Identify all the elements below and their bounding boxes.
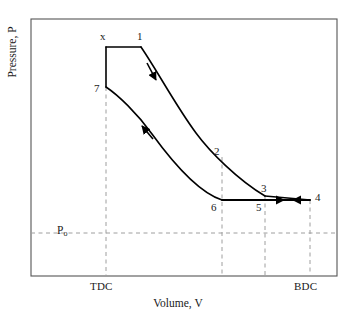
point-label-7: 7 xyxy=(94,82,100,94)
arrow-expansion-direction xyxy=(147,63,156,80)
point-label-6: 6 xyxy=(211,201,217,213)
point-label-x: x xyxy=(100,30,106,42)
point-label-1: 1 xyxy=(137,30,143,42)
point-label-4: 4 xyxy=(315,191,321,203)
pv-diagram-canvas xyxy=(0,0,356,319)
point-label-5: 5 xyxy=(256,201,262,213)
point-label-2: 2 xyxy=(214,145,220,157)
x-tick-label-bdc: BDC xyxy=(294,280,317,292)
x-axis-title: Volume, V xyxy=(0,297,356,309)
x-tick-label-tdc: TDC xyxy=(90,280,113,292)
plot-frame xyxy=(31,19,337,276)
segment-expansion-1-2-3 xyxy=(141,47,265,196)
ambient-pressure-label: Po xyxy=(57,224,67,236)
point-label-3: 3 xyxy=(261,182,267,194)
pv-diagram-figure: x 1 7 2 3 6 5 4 Po TDC BDC Pressure, P V… xyxy=(0,0,356,319)
ambient-pressure-subscript: o xyxy=(63,229,67,238)
y-axis-title: Pressure, P xyxy=(6,0,18,112)
